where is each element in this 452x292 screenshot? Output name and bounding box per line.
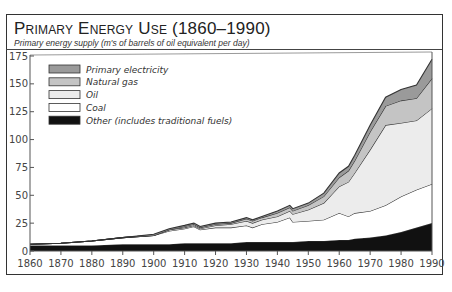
legend-swatch <box>49 65 80 73</box>
x-tick-label: 1930 <box>234 258 259 269</box>
stacked-area-chart: 0255075100125150175 18601870188018901900… <box>0 0 452 292</box>
legend-label: Oil <box>86 90 99 100</box>
x-tick-label: 1940 <box>265 258 290 269</box>
legend-swatch <box>49 103 80 111</box>
x-tick-label: 1920 <box>203 258 228 269</box>
y-tick-label: 25 <box>15 218 28 229</box>
y-tick-label: 0 <box>22 246 28 257</box>
y-tick-label: 75 <box>15 162 28 173</box>
y-tick-label: 175 <box>9 51 28 62</box>
x-axis-ticks: 1860187018801890190019101920193019401950… <box>17 251 444 269</box>
plot-top-border <box>30 52 432 55</box>
legend-swatch <box>49 116 80 124</box>
legend-label: Natural gas <box>86 77 138 87</box>
legend-label: Primary electricity <box>86 65 169 75</box>
y-tick-label: 125 <box>9 106 28 117</box>
legend-label: Other (includes traditional fuels) <box>86 116 232 126</box>
x-tick-label: 1880 <box>79 258 104 269</box>
legend: Primary electricityNatural gasOilCoalOth… <box>49 65 232 126</box>
legend-swatch <box>49 78 80 86</box>
y-tick-label: 50 <box>15 190 28 201</box>
y-tick-label: 100 <box>9 134 28 145</box>
area-layers <box>30 59 432 251</box>
legend-label: Coal <box>86 103 106 113</box>
x-tick-label: 1870 <box>48 258 73 269</box>
x-tick-label: 1910 <box>172 258 197 269</box>
x-tick-label: 1900 <box>141 258 166 269</box>
x-tick-label: 1970 <box>357 258 382 269</box>
x-tick-label: 1990 <box>419 258 444 269</box>
x-tick-label: 1860 <box>17 258 42 269</box>
y-tick-label: 150 <box>9 78 28 89</box>
x-tick-label: 1960 <box>327 258 352 269</box>
x-tick-label: 1890 <box>110 258 135 269</box>
x-tick-label: 1950 <box>296 258 321 269</box>
x-tick-label: 1980 <box>388 258 413 269</box>
legend-swatch <box>49 91 80 99</box>
